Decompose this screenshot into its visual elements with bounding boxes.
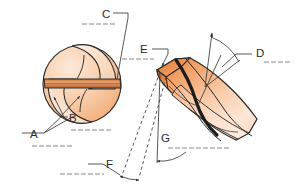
label-A: A [30,128,38,140]
clearance-angle-arc [157,152,186,161]
point-angle-arc [120,176,139,180]
leader-D [222,54,252,67]
point-angle-dash-right [139,77,166,178]
callout-F: F [60,158,113,174]
point-angle-dash-left [121,72,160,178]
drill-bit-diagram-svg: A B C D E F G [0,0,295,194]
clearance-angle-leg [157,74,160,163]
diagram-canvas: A B C D E F G [0,0,295,194]
label-B: B [69,112,77,124]
leader-E [152,49,168,66]
callout-C: C [82,8,116,24]
callout-E: E [122,43,154,59]
cross-section-view [43,45,121,123]
callout-D: D [256,47,290,62]
label-D: D [256,47,264,59]
callout-A: A [30,128,72,146]
label-E: E [140,43,148,55]
label-G: G [161,132,170,144]
helix-angle-arc [211,37,239,62]
label-C: C [102,8,110,20]
label-F: F [106,158,113,170]
